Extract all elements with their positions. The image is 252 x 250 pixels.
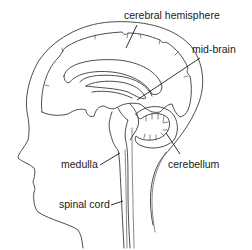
cerebellum-folia bbox=[144, 113, 168, 140]
leader-medulla bbox=[100, 153, 120, 165]
label-cerebellum: cerebellum bbox=[168, 159, 219, 170]
ventricle-arc-2 bbox=[86, 81, 146, 98]
label-mid-brain: mid-brain bbox=[192, 44, 236, 55]
spinal-canal-1 bbox=[125, 150, 127, 248]
pons bbox=[130, 104, 139, 140]
label-cerebral-hemisphere: cerebral hemisphere bbox=[124, 10, 220, 21]
neck-back bbox=[152, 152, 166, 232]
ventricle-arc-3 bbox=[92, 91, 132, 98]
brainstem-inner bbox=[118, 108, 130, 248]
spinal-canal-2 bbox=[132, 128, 134, 248]
brainstem-outline bbox=[109, 112, 124, 248]
label-medulla: medulla bbox=[61, 159, 98, 170]
leader-spinal-cord bbox=[111, 201, 123, 205]
brain-diagram bbox=[0, 0, 252, 250]
label-spinal-cord: spinal cord bbox=[59, 199, 110, 210]
